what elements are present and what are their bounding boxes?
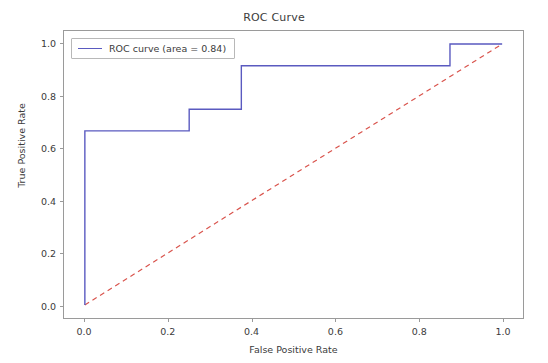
x-tick-label: 1.0 — [495, 326, 510, 337]
legend-box: ROC curve (area = 0.84) — [71, 38, 235, 59]
x-tick-label: 0.4 — [244, 326, 259, 337]
y-tick-mark — [60, 201, 63, 202]
x-axis-label: False Positive Rate — [63, 344, 524, 355]
chance-diagonal-line — [85, 44, 502, 305]
legend-label-roc-curve: ROC curve (area = 0.84) — [109, 43, 226, 54]
roc-curve-figure: ROC Curve ROC curve (area = 0.84) 0.00.2… — [0, 0, 548, 363]
chart-title: ROC Curve — [0, 11, 548, 24]
x-tick-mark — [84, 319, 85, 322]
y-tick-mark — [60, 96, 63, 97]
x-tick-label: 0.0 — [76, 326, 91, 337]
x-tick-mark — [419, 319, 420, 322]
y-tick-mark — [60, 253, 63, 254]
x-tick-mark — [168, 319, 169, 322]
x-tick-mark — [335, 319, 336, 322]
y-tick-mark — [60, 306, 63, 307]
y-tick-label: 0.2 — [20, 248, 56, 259]
plot-axes-area — [63, 30, 524, 319]
legend-swatch-roc-curve — [78, 48, 102, 49]
y-tick-mark — [60, 148, 63, 149]
x-tick-label: 0.2 — [160, 326, 175, 337]
y-tick-mark — [60, 43, 63, 44]
y-tick-label: 1.0 — [20, 38, 56, 49]
x-tick-label: 0.6 — [328, 326, 343, 337]
plot-svg — [64, 31, 523, 318]
y-axis-label: True Positive Rate — [16, 76, 27, 216]
y-tick-label: 0.0 — [20, 300, 56, 311]
x-tick-mark — [252, 319, 253, 322]
x-tick-mark — [503, 319, 504, 322]
x-tick-label: 0.8 — [412, 326, 427, 337]
